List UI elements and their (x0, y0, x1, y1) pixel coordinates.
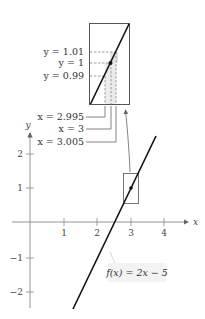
function-label: f(x) = 2x − 5 (105, 267, 168, 278)
x-tick-4: 4 (161, 228, 167, 238)
leader-x-right (86, 106, 116, 142)
x-tick-2: 2 (94, 228, 100, 238)
leader-x-mid (86, 106, 111, 129)
y-tick-2: 2 (17, 149, 23, 159)
x-tick-3: 3 (128, 228, 134, 238)
inset-point (109, 61, 113, 65)
y-axis-label: y (24, 120, 31, 130)
point-3-1 (129, 186, 133, 190)
zoom-arrow (126, 110, 131, 172)
x-tick-1: 1 (61, 228, 67, 238)
leader-x-left (86, 106, 105, 117)
y-tick-neg2: −2 (10, 287, 23, 297)
label-y-lower: y = 0.99 (42, 70, 84, 81)
diagram-canvas: y = 1.01 y = 1 y = 0.99 x = 2.995 x = 3 … (0, 0, 205, 319)
label-x-mid: x = 3 (59, 123, 84, 134)
label-y-mid: y = 1 (58, 57, 84, 68)
y-tick-neg1: −1 (10, 253, 23, 263)
function-line (73, 136, 156, 309)
label-x-left: x = 2.995 (37, 111, 84, 122)
label-y-upper: y = 1.01 (42, 46, 84, 57)
y-tick-1: 1 (17, 183, 23, 193)
x-axis-label: x (193, 217, 198, 227)
zoom-inset (90, 24, 130, 105)
label-x-right: x = 3.005 (37, 136, 84, 147)
